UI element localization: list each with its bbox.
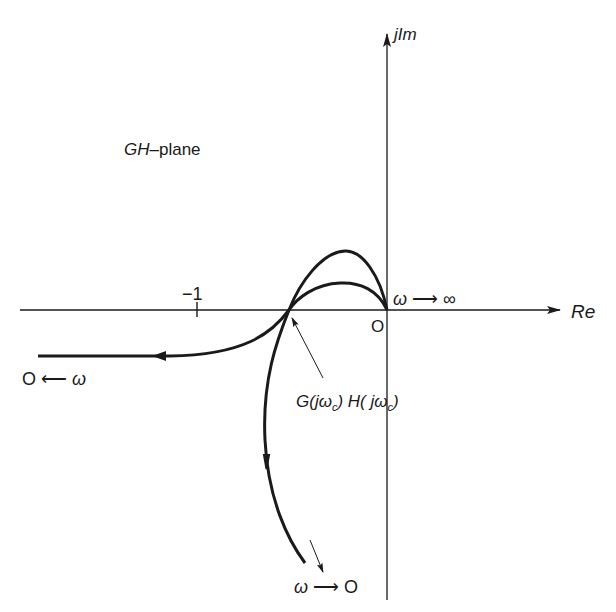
gh-plane-diagram: jIm Re GH–plane −1 O ω ⟶ ∞ O ⟵ ω ω ⟶ O G… [0,0,616,612]
inner-polar-curve [38,283,387,356]
plane-label: GH–plane [124,140,201,159]
imag-axis-label: jIm [392,25,417,44]
inner-curve-direction-arrow [152,351,166,361]
crossing-leader-arrow [292,318,323,378]
minus-one-label: −1 [182,284,203,304]
omega-to-zero-small-arrow [310,540,323,572]
origin-label: O [371,317,384,336]
real-axis-label: Re [571,301,595,322]
zero-from-omega-label: O ⟵ ω [22,369,86,389]
omega-to-infinity-label: ω ⟶ ∞ [393,289,456,309]
crossing-point-label: G(jωc) H( jωc) [296,392,399,413]
omega-to-zero-label: ω ⟶ O [294,577,358,597]
